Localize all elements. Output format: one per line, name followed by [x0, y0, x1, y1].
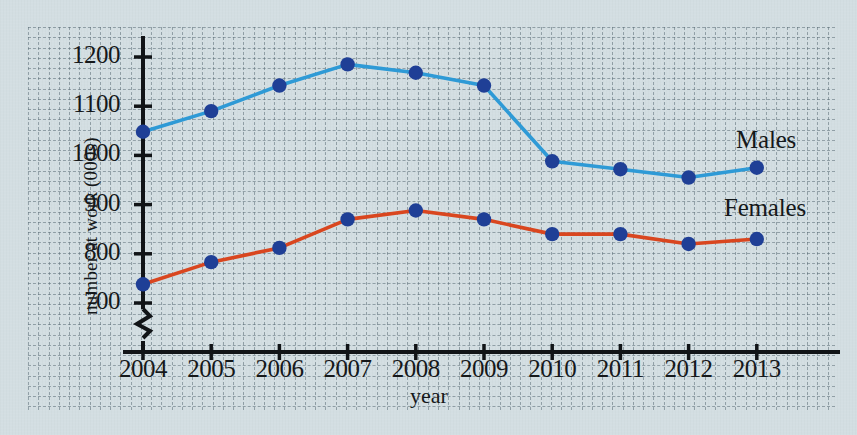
data-series-group	[136, 57, 764, 291]
data-point-females-2013	[750, 232, 764, 246]
y-tick-label-1100: 1100	[30, 90, 120, 118]
data-point-males-2008	[409, 66, 423, 80]
data-point-females-2004	[136, 277, 150, 291]
series-line-females	[143, 211, 757, 285]
y-tick-label-900: 900	[30, 189, 120, 217]
y-tick-label-1000: 1000	[30, 139, 120, 167]
data-point-males-2012	[681, 170, 695, 184]
data-point-males-2011	[613, 162, 627, 176]
data-point-males-2010	[545, 154, 559, 168]
data-point-males-2009	[477, 78, 491, 92]
data-point-females-2009	[477, 212, 491, 226]
series-label-males: Males	[736, 126, 796, 154]
data-point-females-2011	[613, 227, 627, 241]
x-axis-title: year	[410, 383, 448, 409]
x-tick-label-2013: 2013	[712, 355, 802, 383]
data-point-females-2007	[340, 212, 354, 226]
data-point-females-2006	[272, 241, 286, 255]
data-point-males-2005	[204, 104, 218, 118]
data-point-females-2010	[545, 227, 559, 241]
data-point-males-2006	[272, 78, 286, 92]
data-point-females-2005	[204, 255, 218, 269]
y-axis-title: number at work (000s)	[80, 137, 102, 315]
y-tick-label-800: 800	[30, 238, 120, 266]
data-point-males-2013	[750, 161, 764, 175]
data-point-females-2008	[409, 203, 423, 217]
series-line-males	[143, 64, 757, 177]
data-point-males-2004	[136, 125, 150, 139]
data-point-males-2007	[340, 57, 354, 71]
series-label-females: Females	[724, 194, 806, 222]
y-tick-label-700: 700	[30, 287, 120, 315]
y-tick-label-1200: 1200	[30, 41, 120, 69]
data-point-females-2012	[681, 237, 695, 251]
axis-ticks	[134, 57, 757, 360]
